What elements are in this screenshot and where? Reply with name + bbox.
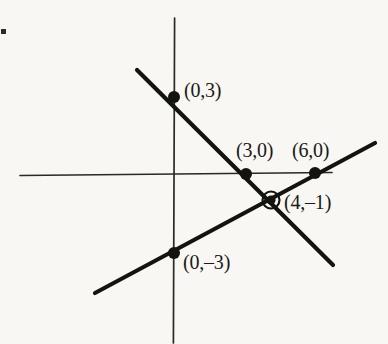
point-label-0-3: (0,3) xyxy=(184,80,221,100)
point-marker-0-minus3 xyxy=(168,247,180,259)
y-axis-line xyxy=(173,18,174,343)
graph-canvas xyxy=(0,0,388,344)
stray-ink-dot xyxy=(1,29,6,34)
point-label-6-0: (6,0) xyxy=(292,140,329,160)
point-label-3-0: (3,0) xyxy=(236,140,273,160)
coordinate-graph-figure: (0,3) (3,0) (6,0) (4,–1) (0,–3) xyxy=(0,0,388,344)
solution-point-marker-4-minus1 xyxy=(266,195,275,204)
point-marker-0-3 xyxy=(168,91,180,103)
x-axis-line xyxy=(20,173,332,176)
descending-line xyxy=(137,70,333,265)
point-marker-6-0 xyxy=(309,167,321,179)
point-marker-3-0 xyxy=(240,168,252,180)
point-label-4-minus1: (4,–1) xyxy=(284,192,331,212)
point-label-0-minus3: (0,–3) xyxy=(183,252,230,272)
